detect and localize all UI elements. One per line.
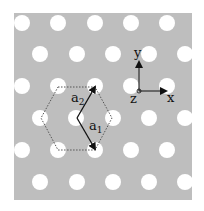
air-hole [177,110,193,126]
y-axis-label: y [133,45,142,60]
lattice-diagram: a1 a2 x y z [0,0,204,211]
air-hole [50,142,66,158]
air-hole [32,174,48,190]
air-hole [177,174,193,190]
air-hole [50,15,66,31]
air-hole [14,78,30,94]
air-hole [50,78,66,94]
air-hole [159,15,175,31]
air-hole [105,46,121,62]
air-hole [105,110,121,126]
z-axis-label: z [130,91,137,106]
air-hole [69,46,85,62]
air-hole [32,110,48,126]
air-hole [105,174,121,190]
air-hole [141,110,157,126]
air-hole [68,110,84,126]
air-hole [32,46,48,62]
air-hole [87,78,103,94]
air-hole [69,174,85,190]
lattice-svg: a1 a2 x y z [0,0,204,211]
air-hole [14,142,30,158]
air-hole [177,46,193,62]
air-hole [14,15,30,31]
air-hole [123,15,139,31]
air-hole [141,46,157,62]
air-hole [159,142,175,158]
air-hole [123,142,139,158]
dielectric-slab [14,13,192,200]
x-axis-label: x [167,90,175,105]
air-hole [87,15,103,31]
air-hole [141,174,157,190]
